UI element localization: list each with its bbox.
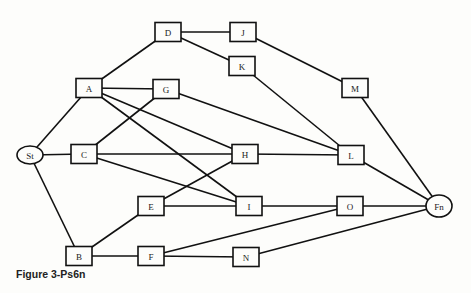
node-label: St xyxy=(26,151,34,161)
node-label: K xyxy=(239,62,246,72)
figure-caption: Figure 3-Ps6n xyxy=(16,268,85,280)
node-b: B xyxy=(66,247,92,266)
node-c: C xyxy=(71,145,97,164)
node-e: E xyxy=(138,197,164,216)
node-label: I xyxy=(248,202,251,212)
node-label: J xyxy=(241,28,245,38)
node-g: G xyxy=(153,80,179,99)
node-n: N xyxy=(233,248,259,267)
node-h: H xyxy=(232,145,258,164)
node-f: F xyxy=(138,247,164,266)
edge-f-n xyxy=(151,256,246,257)
node-label: A xyxy=(86,84,93,94)
network-diagram: StADJKMGCHLEIOFnBFN xyxy=(0,0,471,293)
node-a: A xyxy=(76,79,102,98)
node-label: H xyxy=(242,150,249,160)
node-fn: Fn xyxy=(426,195,452,217)
node-l: L xyxy=(338,146,364,165)
nodes-layer: StADJKMGCHLEIOFnBFN xyxy=(17,23,452,267)
node-d: D xyxy=(155,23,181,42)
node-label: Fn xyxy=(434,202,444,212)
node-label: G xyxy=(163,85,170,95)
node-label: M xyxy=(351,84,359,94)
node-j: J xyxy=(230,23,256,42)
node-st: St xyxy=(17,146,43,164)
node-label: E xyxy=(148,202,154,212)
node-label: B xyxy=(76,252,82,262)
edge-st-b xyxy=(30,155,79,256)
node-i: I xyxy=(236,197,262,216)
node-label: C xyxy=(81,150,87,160)
node-label: F xyxy=(148,252,153,262)
node-label: O xyxy=(347,202,354,212)
node-o: O xyxy=(337,197,363,216)
node-m: M xyxy=(342,79,368,98)
node-label: D xyxy=(165,28,172,38)
edge-k-l xyxy=(242,66,351,155)
edge-a-i xyxy=(89,88,249,206)
edge-m-fn xyxy=(355,88,439,206)
node-label: L xyxy=(348,151,354,161)
node-label: N xyxy=(243,253,250,263)
node-k: K xyxy=(229,57,255,76)
edge-h-l xyxy=(245,154,351,155)
